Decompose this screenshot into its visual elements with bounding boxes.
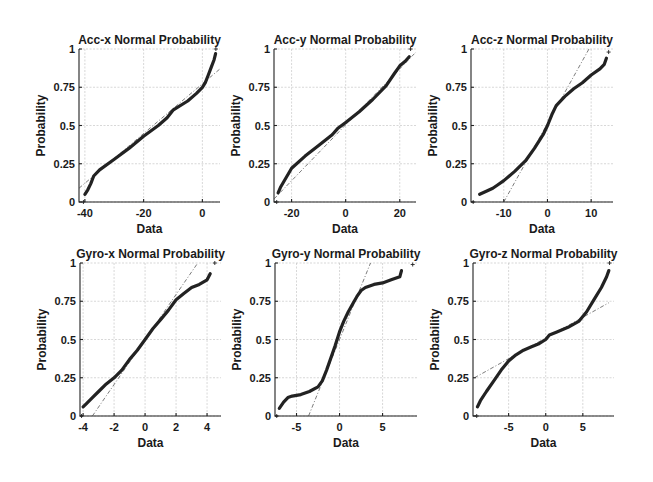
subplot-4: -4-202400.250.50.751Gyro-x Normal Probab… [35, 247, 225, 450]
x-tick-label: 0 [343, 207, 349, 219]
y-tick-label: 0.5 [452, 120, 467, 132]
y-tick-label: 0.25 [55, 372, 76, 384]
y-tick-label: 1 [69, 43, 75, 55]
y-tick-label: 0 [264, 196, 270, 208]
y-tick-label: 0.5 [454, 334, 469, 346]
data-marker [608, 261, 612, 265]
x-tick-label: 10 [585, 207, 597, 219]
y-tick-label: 1 [264, 43, 270, 55]
x-axis-label: Data [137, 436, 163, 450]
y-axis-label: Probability [34, 94, 48, 156]
x-tick-label: -40 [77, 207, 93, 219]
data-curve [85, 54, 216, 195]
subplot-1: -40-20000.250.50.751Acc-x Normal Probabi… [34, 33, 221, 236]
y-tick-label: 0.25 [249, 158, 270, 170]
subplot-6: -50500.250.50.751Gyro-z Normal Probabili… [428, 247, 618, 450]
subplot-3: -1001000.250.50.751Acc-z Normal Probabil… [426, 33, 613, 236]
y-tick-label: 0.75 [448, 295, 469, 307]
data-marker [214, 47, 218, 51]
x-tick-label: -5 [504, 421, 514, 433]
y-tick-label: 0 [70, 410, 76, 422]
subplot-title: Acc-z Normal Probability [471, 33, 613, 47]
x-tick-label: 2 [173, 421, 179, 433]
x-tick-label: 5 [380, 421, 386, 433]
y-tick-label: 0.5 [60, 120, 75, 132]
data-marker [607, 50, 611, 54]
x-tick-label: 4 [204, 421, 211, 433]
y-tick-label: 0 [69, 196, 75, 208]
x-tick-label: -10 [496, 207, 512, 219]
grid [79, 49, 220, 202]
x-tick-label: 0 [142, 421, 148, 433]
x-tick-label: 0 [199, 207, 205, 219]
subplot-title: Acc-x Normal Probability [78, 33, 221, 47]
subplot-title: Gyro-x Normal Probability [76, 247, 225, 261]
data-marker [275, 200, 279, 204]
data-curve [480, 58, 607, 194]
x-axis-label: Data [332, 222, 358, 236]
data-marker [409, 47, 413, 51]
x-axis-label: Data [333, 436, 359, 450]
y-tick-label: 0.75 [249, 81, 270, 93]
data-marker [475, 414, 479, 418]
y-axis-label: Probability [230, 308, 244, 370]
y-tick-label: 0.75 [55, 295, 76, 307]
y-tick-label: 0.75 [250, 295, 271, 307]
y-tick-label: 0.25 [446, 158, 467, 170]
x-tick-label: -4 [78, 421, 89, 433]
subplot-2: -2002000.250.50.751Acc-y Normal Probabil… [229, 33, 417, 236]
x-tick-label: 0 [544, 207, 550, 219]
y-tick-label: 0.25 [448, 372, 469, 384]
grid [80, 263, 221, 416]
y-tick-label: 1 [463, 257, 469, 269]
y-axis-label: Probability [426, 94, 440, 156]
x-axis-label: Data [530, 436, 556, 450]
x-tick-label: 20 [394, 207, 406, 219]
y-tick-label: 1 [461, 43, 467, 55]
figure: -40-20000.250.50.751Acc-x Normal Probabi… [0, 0, 653, 482]
y-tick-label: 1 [265, 257, 271, 269]
y-tick-label: 0 [463, 410, 469, 422]
data-marker [471, 200, 475, 204]
y-axis-label: Probability [35, 308, 49, 370]
x-tick-label: -2 [109, 421, 119, 433]
y-tick-label: 0 [461, 196, 467, 208]
x-axis-label: Data [136, 222, 162, 236]
subplot-title: Gyro-z Normal Probability [469, 247, 617, 261]
subplot-5: -50500.250.50.751Gyro-y Normal Probabili… [230, 247, 421, 450]
grid [275, 263, 417, 416]
x-tick-label: 0 [336, 421, 342, 433]
data-curve [278, 57, 409, 193]
x-tick-label: 0 [543, 421, 549, 433]
y-tick-label: 0.5 [255, 120, 270, 132]
y-tick-label: 0.75 [446, 81, 467, 93]
subplot-title: Gyro-y Normal Probability [272, 247, 421, 261]
x-axis-label: Data [529, 222, 555, 236]
data-marker [411, 263, 415, 267]
y-axis-label: Probability [428, 308, 442, 370]
y-tick-label: 0.5 [61, 334, 76, 346]
x-tick-label: 5 [580, 421, 586, 433]
subplot-title: Acc-y Normal Probability [274, 33, 417, 47]
x-tick-label: -5 [292, 421, 302, 433]
y-axis-label: Probability [229, 94, 243, 156]
y-tick-label: 0 [265, 410, 271, 422]
data-curve [478, 271, 609, 407]
grid [471, 49, 613, 202]
y-tick-label: 1 [70, 257, 76, 269]
y-tick-label: 0.25 [54, 158, 75, 170]
y-tick-label: 0.5 [256, 334, 271, 346]
y-tick-label: 0.25 [250, 372, 271, 384]
x-tick-label: -20 [284, 207, 300, 219]
x-tick-label: -20 [136, 207, 152, 219]
y-tick-label: 0.75 [54, 81, 75, 93]
data-curve [83, 274, 210, 407]
data-marker [213, 261, 217, 265]
